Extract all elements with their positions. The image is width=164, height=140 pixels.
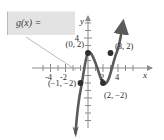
y-axis-label: y bbox=[79, 16, 84, 26]
x-axis-label: x bbox=[142, 70, 147, 80]
function-callout-box: g(x) = bbox=[7, 11, 75, 35]
point-3-2 bbox=[108, 50, 114, 56]
x-ticklabel-4: 4 bbox=[115, 72, 120, 82]
point-label-3-2: (3, 2) bbox=[115, 41, 134, 51]
point-label-0-2: (0, 2) bbox=[66, 39, 85, 49]
point-label-neg1-neg2: (−1, −2) bbox=[48, 78, 76, 88]
x-ticklabel-2: 2 bbox=[100, 72, 104, 82]
graph-figure: x y -4 -2 2 4 4 (0, 2) (3, 2) (−1, −2) (… bbox=[0, 0, 164, 140]
point-0-2 bbox=[85, 50, 91, 56]
function-label-text: g(x) = bbox=[16, 17, 41, 28]
point-label-2-neg2: (2, −2) bbox=[104, 90, 127, 100]
point-neg1-neg2 bbox=[78, 80, 84, 86]
